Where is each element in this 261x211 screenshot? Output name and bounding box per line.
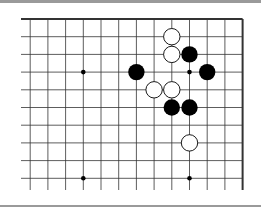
- board-grid: [21, 19, 243, 190]
- bottom-frame-rule: [0, 205, 261, 207]
- star-point-icon: [81, 70, 86, 75]
- black-stone: [181, 46, 197, 62]
- black-stone: [181, 99, 197, 115]
- black-stone: [199, 64, 215, 80]
- star-point-icon: [81, 176, 86, 181]
- star-point-icon: [187, 176, 192, 181]
- white-stone: [164, 46, 180, 62]
- black-stone: [128, 64, 144, 80]
- white-stone: [146, 82, 162, 98]
- white-stone: [181, 135, 197, 151]
- go-board[interactable]: [0, 0, 261, 211]
- black-stone: [164, 99, 180, 115]
- white-stone: [164, 29, 180, 45]
- star-point-icon: [187, 70, 192, 75]
- white-stone: [164, 82, 180, 98]
